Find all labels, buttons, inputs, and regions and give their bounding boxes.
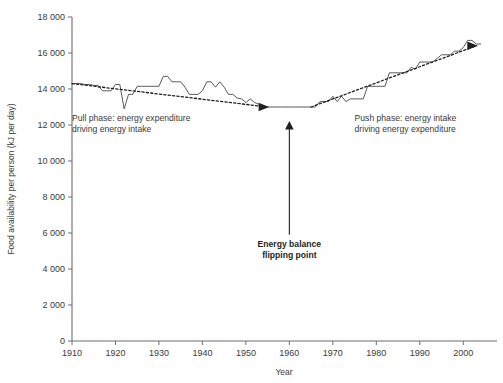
push-phase-annotation-line: driving energy expenditure <box>355 124 456 134</box>
y-tick-label: 8 000 <box>42 192 65 202</box>
y-tick-label: 6 000 <box>42 228 65 238</box>
y-tick-label: 16 000 <box>37 48 65 58</box>
y-tick-label: 0 <box>60 336 65 346</box>
y-tick-label: 2 000 <box>42 300 65 310</box>
x-tick-label: 1960 <box>279 348 299 358</box>
x-tick-label: 1920 <box>105 348 125 358</box>
x-tick-label: 1950 <box>236 348 256 358</box>
y-tick-label: 12 000 <box>37 120 65 130</box>
y-tick-label: 14 000 <box>37 84 65 94</box>
x-axis-title: Year <box>275 367 292 377</box>
pull-phase-annotation-line: Pull phase: energy expenditure <box>72 113 191 123</box>
pull-phase-annotation-line: driving energy intake <box>72 124 152 134</box>
y-tick-label: 10 000 <box>37 156 65 166</box>
x-tick-label: 1970 <box>323 348 343 358</box>
push-phase-annotation-line: Push phase: energy intake <box>355 113 457 123</box>
flipping-point-annotation: Energy balanceflipping point <box>258 239 322 260</box>
y-axis-title: Food availability per person (kJ per day… <box>6 103 16 254</box>
chart-background <box>0 0 503 383</box>
x-tick-label: 1980 <box>366 348 386 358</box>
x-tick-label: 1910 <box>62 348 82 358</box>
push-phase-annotation: Push phase: energy intakedriving energy … <box>355 113 457 134</box>
flipping-point-annotation-line: Energy balance <box>258 239 322 249</box>
x-tick-label: 1940 <box>192 348 212 358</box>
chart-figure: 02 0004 0006 0008 00010 00012 00014 0001… <box>0 0 503 383</box>
x-tick-label: 1990 <box>410 348 430 358</box>
y-tick-label: 18 000 <box>37 12 65 22</box>
y-tick-label: 4 000 <box>42 264 65 274</box>
x-tick-label: 2000 <box>453 348 473 358</box>
flipping-point-annotation-line: flipping point <box>262 250 317 260</box>
x-tick-label: 1930 <box>149 348 169 358</box>
